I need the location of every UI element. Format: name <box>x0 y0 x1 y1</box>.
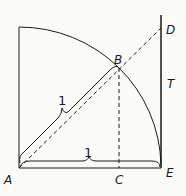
point-label-D: D <box>166 23 175 37</box>
base-label: 1 <box>84 145 92 160</box>
point-label-A: A <box>3 173 12 187</box>
point-label-B: B <box>114 53 122 67</box>
point-label-T: T <box>167 77 176 91</box>
point-label-C: C <box>115 173 124 187</box>
unit-circle-tangent-diagram: 1 1 A C E B D T <box>0 0 186 196</box>
radius-label: 1 <box>58 93 66 108</box>
brace-AB <box>20 66 120 163</box>
point-label-E: E <box>166 166 174 180</box>
